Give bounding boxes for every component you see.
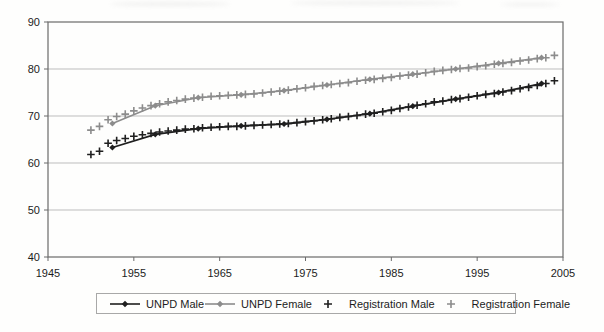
marker-plus [388,74,396,82]
marker-plus [542,80,550,88]
marker-plus [87,126,95,134]
marker-plus [293,119,301,127]
marker-plus [302,84,310,92]
marker-plus [396,105,404,113]
legend-label: UNPD Male [146,298,204,310]
y-axis-label: 90 [28,16,40,28]
marker-plus [207,123,215,131]
marker-plus [96,123,104,131]
legend-line-diamond-icon [204,298,236,310]
marker-plus [310,117,318,125]
legend-label: Registration Female [472,298,570,310]
marker-plus [345,79,353,87]
marker-plus [516,57,524,65]
marker-plus [250,90,258,98]
marker-plus [130,132,138,140]
marker-plus [465,64,473,72]
marker-plus [456,95,464,103]
marker-plus [182,125,190,133]
marker-plus [233,91,241,99]
marker-plus [388,107,396,115]
marker-plus [199,93,207,101]
legend-label: Registration Male [349,298,435,310]
marker-plus [491,61,499,69]
x-axis: 1945195519651975198519952005 [36,257,575,279]
marker-plus [242,91,250,99]
marker-plus [96,147,104,155]
marker-plus [276,87,284,95]
figure-canvas: 9080706050401945195519651975198519952005… [0,0,604,332]
marker-plus [319,82,327,90]
marker-plus [121,135,129,143]
marker-plus [224,123,232,131]
marker-plus [465,93,473,101]
marker-plus [379,108,387,116]
marker-plus [259,89,267,97]
marker-plus [473,92,481,100]
marker-plus [448,96,456,104]
marker-plus [542,54,550,62]
marker-plus [285,86,293,94]
marker-plus [482,62,490,70]
x-axis-label: 1945 [36,267,60,279]
marker-plus [499,88,507,96]
marker-plus [533,55,541,63]
marker-plus [293,85,301,93]
marker-plus [439,97,447,105]
line-chart: 9080706050401945195519651975198519952005 [0,0,604,332]
marker-plus [516,85,524,93]
legend-label: UNPD Female [241,298,312,310]
marker-plus [199,124,207,132]
marker-plus [87,151,95,159]
marker-plus [353,77,361,85]
marker-plus [242,122,250,130]
legend-item-unpd-female: UNPD Female [204,298,312,310]
marker-plus [379,75,387,83]
marker-plus [525,84,533,92]
marker-plus [216,123,224,131]
marker-plus [190,125,198,133]
marker-diamond [109,120,115,126]
marker-plus [430,98,438,106]
marker-plus [285,120,293,128]
legend-item-registration-female: Registration Female [435,298,570,310]
marker-plus [190,94,198,102]
marker-plus [456,65,464,73]
marker-plus [250,122,258,130]
marker-plus [319,116,327,124]
x-axis-label: 2005 [551,267,575,279]
marker-plus [405,71,413,79]
x-axis-label: 1995 [465,267,489,279]
marker-plus [224,92,232,100]
marker-plus [216,92,224,100]
chart-legend: UNPD MaleUNPD FemaleRegistration MaleReg… [96,293,516,314]
y-axis: 908070605040 [28,16,48,263]
marker-plus [448,66,456,74]
marker-plus [267,121,275,129]
marker-plus [345,113,353,121]
legend-plus-icon [312,298,344,310]
y-axis-label: 70 [28,110,40,122]
marker-plus [362,110,370,118]
marker-plus [525,56,533,64]
y-axis-label: 40 [28,251,40,263]
marker-plus [491,90,499,98]
marker-plus [302,118,310,126]
y-axis-label: 50 [28,204,40,216]
marker-plus [182,95,190,103]
marker-plus [259,121,267,129]
marker-plus [508,87,516,95]
marker-plus [327,81,335,89]
legend-plus-icon [435,298,467,310]
marker-plus [113,137,121,145]
marker-plus [508,59,516,67]
y-axis-label: 60 [28,157,40,169]
marker-plus [104,139,112,147]
marker-plus [413,101,421,109]
x-axis-label: 1975 [293,267,317,279]
marker-plus [551,77,559,85]
legend-item-registration-male: Registration Male [312,298,435,310]
marker-diamond [410,103,416,109]
marker-plus [405,103,413,111]
marker-plus [499,60,507,68]
